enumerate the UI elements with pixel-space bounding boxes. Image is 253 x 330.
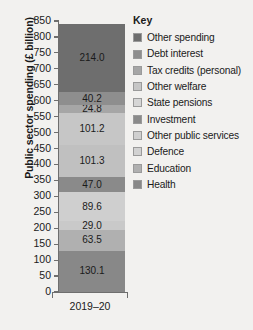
- legend-swatch-icon: [133, 33, 142, 42]
- y-axis-tick-label: 0: [45, 285, 51, 297]
- bar-segment-other-welfare[interactable]: 101.2: [59, 113, 125, 145]
- y-axis-tick-label: 600: [33, 94, 51, 106]
- y-axis-tick-label: 400: [33, 157, 51, 169]
- y-axis-tick-label: 250: [33, 205, 51, 217]
- legend-swatch-icon: [133, 147, 142, 156]
- legend-item-debt-interest[interactable]: Debt interest: [133, 46, 253, 62]
- x-axis-left-cap: [52, 292, 53, 298]
- y-axis-tick-label: 450: [33, 142, 51, 154]
- legend: Key Other spendingDebt interestTax credi…: [133, 14, 253, 193]
- legend-swatch-icon: [133, 180, 142, 189]
- bar-segment-value: 29.0: [82, 221, 101, 230]
- y-axis-tick-label: 650: [33, 78, 51, 90]
- plot-area: 214.040.224.8101.2101.347.089.629.063.51…: [59, 21, 125, 292]
- y-axis-tick-label: 350: [33, 173, 51, 185]
- y-axis-tick-label: 200: [33, 221, 51, 233]
- stacked-bar-chart: Public sector spending (£ billion) 05010…: [0, 0, 253, 330]
- legend-item-state-pensions[interactable]: State pensions: [133, 95, 253, 111]
- y-axis-tick-label: 800: [33, 30, 51, 42]
- x-axis-category-label: 2019–20: [52, 300, 128, 312]
- bar-segment-defence[interactable]: 29.0: [59, 221, 125, 230]
- bar-segment-other-public-services[interactable]: 89.6: [59, 192, 125, 221]
- legend-item-label: Other spending: [147, 32, 215, 43]
- legend-swatch-icon: [133, 98, 142, 107]
- legend-swatch-icon: [133, 66, 142, 75]
- y-axis-tick-label: 300: [33, 189, 51, 201]
- legend-item-label: Investment: [147, 114, 195, 125]
- y-axis-tick-label: 700: [33, 62, 51, 74]
- legend-item-defence[interactable]: Defence: [133, 144, 253, 160]
- bar-segment-value: 214.0: [79, 53, 104, 63]
- bar-segment-tax-credits-personal[interactable]: 24.8: [59, 105, 125, 113]
- bar-segment-value: 101.3: [79, 156, 104, 166]
- bar-segment-value: 101.2: [79, 124, 104, 134]
- legend-item-health[interactable]: Health: [133, 176, 253, 192]
- legend-item-label: State pensions: [147, 97, 212, 108]
- bar-segment-value: 130.1: [79, 266, 104, 276]
- y-axis-tick-label: 550: [33, 110, 51, 122]
- x-axis-right-cap: [127, 292, 128, 298]
- y-axis-tick-label: 100: [33, 253, 51, 265]
- legend-swatch-icon: [133, 50, 142, 59]
- legend-swatch-icon: [133, 115, 142, 124]
- bar-segment-value: 63.5: [82, 235, 101, 245]
- legend-item-other-spending[interactable]: Other spending: [133, 30, 253, 46]
- bar-segment-investment[interactable]: 47.0: [59, 177, 125, 192]
- y-axis-ticks: 0501001502002503003504004505005506006507…: [0, 21, 59, 292]
- y-axis-tick-label: 150: [33, 237, 51, 249]
- stacked-bar-2019-20[interactable]: 214.040.224.8101.2101.347.089.629.063.51…: [59, 21, 125, 292]
- legend-item-label: Tax credits (personal): [147, 65, 241, 76]
- bar-segment-debt-interest[interactable]: 40.2: [59, 92, 125, 105]
- y-axis-tick-label: 750: [33, 46, 51, 58]
- bar-segment-other-spending[interactable]: 214.0: [59, 24, 125, 92]
- legend-item-label: Other public services: [147, 130, 239, 141]
- legend-swatch-icon: [133, 82, 142, 91]
- bar-segment-state-pensions[interactable]: 101.3: [59, 145, 125, 177]
- bar-segment-education[interactable]: 63.5: [59, 230, 125, 250]
- bar-segment-value: 40.2: [82, 94, 101, 104]
- legend-item-label: Other welfare: [147, 81, 206, 92]
- legend-item-other-welfare[interactable]: Other welfare: [133, 78, 253, 94]
- legend-item-investment[interactable]: Investment: [133, 111, 253, 127]
- x-axis-line: [52, 292, 128, 293]
- legend-item-other-public-services[interactable]: Other public services: [133, 127, 253, 143]
- legend-item-label: Debt interest: [147, 48, 203, 59]
- legend-swatch-icon: [133, 131, 142, 140]
- legend-item-label: Education: [147, 163, 191, 174]
- legend-items: Other spendingDebt interestTax credits (…: [133, 30, 253, 193]
- y-axis-tick-label: 50: [39, 269, 51, 281]
- legend-item-label: Health: [147, 179, 176, 190]
- legend-swatch-icon: [133, 164, 142, 173]
- legend-item-education[interactable]: Education: [133, 160, 253, 176]
- legend-item-label: Defence: [147, 146, 184, 157]
- legend-item-tax-credits-personal[interactable]: Tax credits (personal): [133, 62, 253, 78]
- y-axis-tick-label: 500: [33, 126, 51, 138]
- bar-segment-value: 47.0: [82, 180, 101, 190]
- y-axis-tick-label: 850: [33, 14, 51, 26]
- legend-title: Key: [133, 14, 253, 27]
- bar-segment-value: 24.8: [82, 105, 101, 113]
- bar-segment-value: 89.6: [82, 202, 101, 212]
- bar-segment-health[interactable]: 130.1: [59, 251, 125, 292]
